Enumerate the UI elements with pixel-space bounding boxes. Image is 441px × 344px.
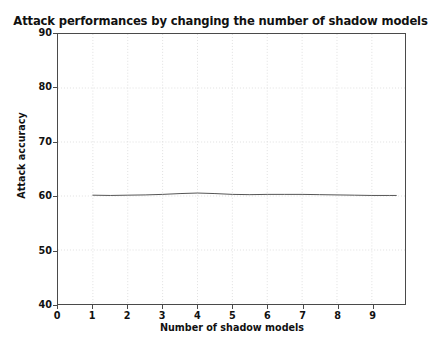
y-tick-mark [53, 142, 57, 143]
x-tick-label: 9 [361, 310, 385, 321]
x-tick-label: 0 [45, 310, 69, 321]
x-tick-label: 7 [291, 310, 315, 321]
x-tick-labels: 0123456789 [0, 0, 441, 344]
x-tick-mark [338, 305, 339, 309]
x-tick-mark [303, 305, 304, 309]
x-tick-label: 6 [255, 310, 279, 321]
x-tick-label: 4 [185, 310, 209, 321]
y-tick-mark [53, 251, 57, 252]
x-tick-label: 3 [150, 310, 174, 321]
y-tick-mark [53, 33, 57, 34]
x-tick-mark [232, 305, 233, 309]
x-tick-mark [162, 305, 163, 309]
x-tick-mark [197, 305, 198, 309]
x-tick-label: 8 [326, 310, 350, 321]
x-tick-label: 2 [115, 310, 139, 321]
x-tick-mark [92, 305, 93, 309]
x-tick-mark [127, 305, 128, 309]
x-tick-label: 1 [80, 310, 104, 321]
x-tick-mark [373, 305, 374, 309]
x-tick-mark [57, 305, 58, 309]
chart-figure: Attack performances by changing the numb… [0, 0, 441, 344]
y-tick-mark [53, 87, 57, 88]
x-tick-mark [267, 305, 268, 309]
x-tick-label: 5 [220, 310, 244, 321]
y-tick-mark [53, 196, 57, 197]
